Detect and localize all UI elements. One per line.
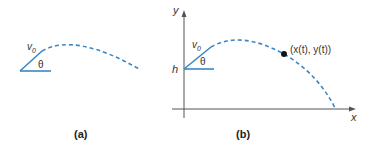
y-axis-arrow-icon	[182, 10, 187, 17]
y-axis-label: y	[173, 5, 179, 16]
caption-b: (b)	[236, 129, 250, 140]
angle-label-b: θ	[200, 57, 206, 67]
diagram-graphics	[0, 0, 369, 152]
angle-label-a: θ	[38, 60, 44, 70]
projectile-diagram: v0 θ (a) y x h v0 θ (x(t), y(t)) (b)	[0, 0, 369, 152]
caption-a: (a)	[74, 129, 87, 140]
velocity-label-b: v0	[192, 40, 201, 52]
height-label: h	[172, 64, 178, 75]
position-point	[281, 51, 287, 57]
velocity-label-a: v0	[27, 42, 36, 54]
trajectory-curve	[42, 45, 141, 70]
point-label: (x(t), y(t))	[290, 45, 331, 55]
x-axis-label: x	[351, 112, 357, 123]
